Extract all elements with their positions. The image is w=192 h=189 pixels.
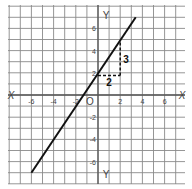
x-axis-label-left: X [7, 90, 15, 101]
x-tick-label: -6 [28, 98, 34, 105]
y-tick-label: 4 [92, 48, 96, 55]
y-tick-label: -2 [90, 114, 96, 121]
axes [8, 5, 185, 184]
x-tick-label: -4 [50, 98, 56, 105]
x-tick-label: 4 [140, 98, 144, 105]
y-axis-label-top: Y [103, 10, 110, 21]
x-axis-label-right: X [178, 90, 186, 101]
y-tick-label: -6 [90, 159, 96, 166]
coordinate-plane: -6-4-2246642-2-4-6O XXYY 23 [0, 0, 192, 189]
x-tick-label: 6 [163, 98, 167, 105]
x-tick-label: 2 [118, 98, 122, 105]
y-axis-label-bottom: Y [103, 169, 110, 180]
y-tick-label: -4 [90, 136, 96, 143]
y-tick-label: 6 [92, 25, 96, 32]
run-label: 2 [106, 77, 112, 88]
origin-label: O [86, 96, 94, 107]
rise-label: 3 [123, 54, 129, 65]
